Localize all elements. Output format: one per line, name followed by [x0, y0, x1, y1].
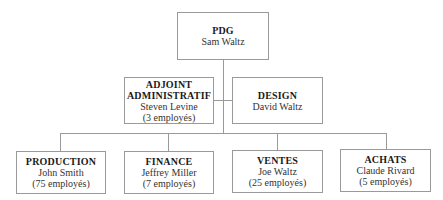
department-title: FINANCE	[146, 156, 193, 167]
staff-connector-line	[213, 100, 232, 101]
department-ventes-box: VENTES Joe Waltz (25 employés)	[232, 150, 323, 193]
department-title: ACHATS	[364, 154, 406, 165]
department-production-box: PRODUCTION John Smith (75 employés)	[16, 151, 106, 194]
admin-assistant-name: Steven Levine	[140, 101, 197, 112]
ceo-box: PDG Sam Waltz	[177, 12, 269, 60]
department-manager: John Smith	[38, 167, 83, 178]
department-count: (7 employés)	[143, 178, 196, 189]
department-title: PRODUCTION	[26, 156, 96, 167]
department-achats-box: ACHATS Claude Rivard (5 employés)	[340, 149, 431, 192]
ceo-title: PDG	[212, 25, 234, 36]
department-manager: Joe Waltz	[258, 166, 297, 177]
ceo-trunk-line	[223, 60, 224, 133]
design-title: DESIGN	[258, 90, 298, 101]
department-manager: Jeffrey Miller	[141, 167, 196, 178]
department-finance-box: FINANCE Jeffrey Miller (7 employés)	[124, 151, 214, 194]
department-bus-line	[60, 133, 387, 134]
department-title: VENTES	[257, 155, 298, 166]
department-manager: Claude Rivard	[356, 165, 414, 176]
production-drop-line	[60, 133, 61, 151]
admin-assistant-title-1: ADJOINT	[146, 79, 192, 90]
finance-drop-line	[168, 133, 169, 151]
admin-assistant-title-2: ADMINISTRATIF	[127, 90, 211, 101]
department-count: (25 employés)	[249, 177, 307, 188]
admin-assistant-box: ADJOINT ADMINISTRATIF Steven Levine (3 e…	[124, 77, 214, 124]
ventes-drop-line	[277, 133, 278, 150]
design-name: David Waltz	[253, 101, 303, 112]
ceo-name: Sam Waltz	[201, 36, 244, 47]
department-count: (5 employés)	[359, 176, 412, 187]
department-count: (75 employés)	[32, 178, 90, 189]
admin-assistant-count: (3 employés)	[143, 112, 196, 123]
design-box: DESIGN David Waltz	[232, 77, 323, 124]
achats-drop-line	[386, 133, 387, 149]
